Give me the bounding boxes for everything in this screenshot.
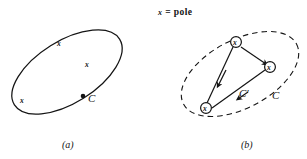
contour-c-dashed [168,14,307,134]
panel-b-graphic [0,0,307,159]
pole-marker-b1: x [233,39,237,47]
contour-cprime-edge-1 [241,47,266,64]
contour-cprime-edge-3 [207,47,233,103]
pole-marker-b2: x [267,64,271,72]
contour-label-c-panel-b: C [272,90,279,101]
figure-root: x = pole x x x C (a) [0,0,307,159]
pole-marker-b3: x [203,105,207,113]
contour-label-cprime-panel-b: C' [239,88,249,99]
panel-caption-b: (b) [241,140,253,150]
